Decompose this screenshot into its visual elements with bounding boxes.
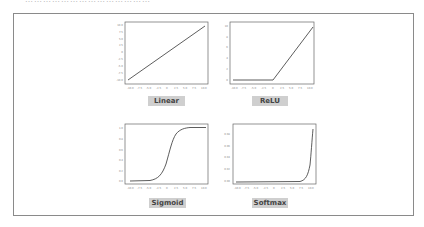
softmax-label: Softmax xyxy=(252,198,288,208)
svg-text:0.0: 0.0 xyxy=(119,180,123,183)
sigmoid-label: Sigmoid xyxy=(149,198,186,208)
svg-text:-7.5: -7.5 xyxy=(137,87,142,90)
svg-text:5.0: 5.0 xyxy=(289,87,293,90)
svg-text:7.5: 7.5 xyxy=(192,87,196,90)
svg-text:0: 0 xyxy=(121,51,123,54)
svg-text:-5.0: -5.0 xyxy=(118,65,123,68)
svg-text:2.5: 2.5 xyxy=(174,87,178,90)
cropped-caption-text: …………………………………… xyxy=(25,0,200,3)
svg-text:0.02: 0.02 xyxy=(224,168,230,171)
svg-text:-10.0: -10.0 xyxy=(231,87,238,90)
svg-text:-5.0: -5.0 xyxy=(251,87,256,90)
linear-chart: 10.07.5 5.02.5 0-2.5 -5.0-7.5 -10.0 -10.… xyxy=(110,20,210,115)
svg-text:-2.5: -2.5 xyxy=(263,187,268,190)
svg-text:7.5: 7.5 xyxy=(119,31,123,34)
relu-label: ReLU xyxy=(252,96,288,106)
svg-text:7.5: 7.5 xyxy=(299,187,303,190)
svg-text:10.0: 10.0 xyxy=(307,87,313,90)
svg-text:-5.0: -5.0 xyxy=(146,187,151,190)
svg-text:7.5: 7.5 xyxy=(298,87,302,90)
svg-text:7.5: 7.5 xyxy=(192,187,196,190)
svg-text:-2.5: -2.5 xyxy=(118,58,123,61)
svg-text:10.0: 10.0 xyxy=(117,24,123,27)
svg-text:5.0: 5.0 xyxy=(290,187,294,190)
svg-text:0: 0 xyxy=(166,87,168,90)
svg-text:10: 10 xyxy=(225,25,229,28)
svg-text:6: 6 xyxy=(226,46,228,49)
svg-text:10.0: 10.0 xyxy=(308,187,314,190)
svg-text:0.6: 0.6 xyxy=(119,149,123,152)
svg-text:-2.5: -2.5 xyxy=(156,87,161,90)
svg-text:1.0: 1.0 xyxy=(119,127,123,130)
svg-text:-10.0: -10.0 xyxy=(127,187,134,190)
svg-text:-2.5: -2.5 xyxy=(156,187,161,190)
svg-text:2.5: 2.5 xyxy=(281,187,285,190)
svg-text:2.5: 2.5 xyxy=(119,44,123,47)
softmax-chart: 0.080.06 0.040.02 0.00 -10.0-7.5-5.0 -2.… xyxy=(218,120,318,215)
svg-text:0.06: 0.06 xyxy=(224,145,230,148)
svg-text:0: 0 xyxy=(273,187,275,190)
svg-text:-10.0: -10.0 xyxy=(116,79,123,82)
svg-text:-7.5: -7.5 xyxy=(137,187,142,190)
svg-text:0.04: 0.04 xyxy=(224,156,230,159)
svg-text:0.2: 0.2 xyxy=(119,170,123,173)
svg-text:0: 0 xyxy=(226,79,228,82)
svg-text:5.0: 5.0 xyxy=(119,38,123,41)
svg-text:-7.5: -7.5 xyxy=(244,187,249,190)
svg-text:0: 0 xyxy=(272,87,274,90)
linear-label: Linear xyxy=(148,96,185,106)
svg-text:-10.0: -10.0 xyxy=(127,87,134,90)
svg-text:4: 4 xyxy=(226,57,228,60)
svg-text:8: 8 xyxy=(226,36,228,39)
svg-text:0.4: 0.4 xyxy=(119,159,123,162)
sigmoid-chart: 1.00.8 0.60.4 0.20.0 -10.0-7.5-5.0 -2.50… xyxy=(110,120,210,215)
svg-text:10.0: 10.0 xyxy=(201,87,207,90)
svg-text:2: 2 xyxy=(226,68,228,71)
svg-text:0.08: 0.08 xyxy=(224,133,230,136)
svg-text:-2.5: -2.5 xyxy=(261,87,266,90)
svg-text:-5.0: -5.0 xyxy=(253,187,258,190)
svg-text:0: 0 xyxy=(166,187,168,190)
svg-text:-10.0: -10.0 xyxy=(234,187,241,190)
figure-frame xyxy=(13,13,414,216)
svg-text:-7.5: -7.5 xyxy=(118,72,123,75)
svg-text:5.0: 5.0 xyxy=(183,87,187,90)
relu-chart: 108 64 20 -10.0-7.5-5.0 -2.502.5 5.07.51… xyxy=(218,20,318,115)
svg-text:5.0: 5.0 xyxy=(183,187,187,190)
svg-text:2.5: 2.5 xyxy=(174,187,178,190)
svg-text:10.0: 10.0 xyxy=(201,187,207,190)
svg-text:-5.0: -5.0 xyxy=(146,87,151,90)
svg-text:0.8: 0.8 xyxy=(119,138,123,141)
svg-text:-7.5: -7.5 xyxy=(241,87,246,90)
svg-text:2.5: 2.5 xyxy=(280,87,284,90)
svg-text:0.00: 0.00 xyxy=(224,180,230,183)
